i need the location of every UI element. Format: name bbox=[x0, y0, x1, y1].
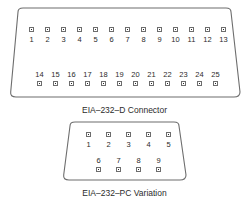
db25-caption: EIA–232–D Connector bbox=[0, 105, 249, 116]
db25-pin-label-21: 21 bbox=[143, 70, 160, 79]
db9-pin-3[interactable] bbox=[126, 132, 131, 137]
db25-pin-label-25: 25 bbox=[207, 70, 224, 79]
db9-pin-label-9: 9 bbox=[150, 156, 167, 165]
db9-pin-label-3: 3 bbox=[120, 140, 137, 149]
db25-pin-1[interactable] bbox=[29, 27, 34, 32]
db25-pin-label-23: 23 bbox=[175, 70, 192, 79]
db25-pin-label-13: 13 bbox=[215, 35, 232, 44]
db25-pin-label-1: 1 bbox=[23, 35, 40, 44]
db25-pin-10[interactable] bbox=[173, 27, 178, 32]
db9-pin-label-2: 2 bbox=[100, 140, 117, 149]
db25-pin-15[interactable] bbox=[53, 81, 58, 86]
db25-pin-label-11: 11 bbox=[183, 35, 200, 44]
figure-root: 1 2 3 4 5 6 7 8 9 10 11 12 13 14 15 16 1… bbox=[0, 0, 249, 210]
db25-pin-4[interactable] bbox=[77, 27, 82, 32]
db9-pin-4[interactable] bbox=[146, 132, 151, 137]
db25-pin-8[interactable] bbox=[141, 27, 146, 32]
db25-pin-12[interactable] bbox=[205, 27, 210, 32]
db25-pin-20[interactable] bbox=[133, 81, 138, 86]
db25-pin-18[interactable] bbox=[101, 81, 106, 86]
db9-connector-diagram: 1 2 3 4 5 6 7 8 9 EIA–232–PC Variation bbox=[0, 118, 249, 210]
db9-pin-7[interactable] bbox=[116, 167, 121, 172]
db25-pin-label-14: 14 bbox=[31, 70, 48, 79]
db25-pin-6[interactable] bbox=[109, 27, 114, 32]
db25-pin-label-17: 17 bbox=[79, 70, 96, 79]
db25-pin-9[interactable] bbox=[157, 27, 162, 32]
db9-pin-label-1: 1 bbox=[80, 140, 97, 149]
db25-pin-24[interactable] bbox=[197, 81, 202, 86]
db9-pin-label-8: 8 bbox=[130, 156, 147, 165]
db25-pin-16[interactable] bbox=[69, 81, 74, 86]
db9-pin-label-4: 4 bbox=[140, 140, 157, 149]
db25-pin-label-5: 5 bbox=[87, 35, 104, 44]
db25-pin-14[interactable] bbox=[37, 81, 42, 86]
db25-pin-label-20: 20 bbox=[127, 70, 144, 79]
db25-pin-label-22: 22 bbox=[159, 70, 176, 79]
db25-pin-13[interactable] bbox=[221, 27, 226, 32]
db25-pin-19[interactable] bbox=[117, 81, 122, 86]
db25-pin-layer: 1 2 3 4 5 6 7 8 9 10 11 12 13 14 15 16 1… bbox=[0, 0, 249, 118]
db25-pin-label-9: 9 bbox=[151, 35, 168, 44]
db9-pin-6[interactable] bbox=[96, 167, 101, 172]
db9-pin-label-5: 5 bbox=[160, 140, 177, 149]
db25-pin-label-3: 3 bbox=[55, 35, 72, 44]
db9-pin-5[interactable] bbox=[166, 132, 171, 137]
db25-pin-label-8: 8 bbox=[135, 35, 152, 44]
db25-pin-7[interactable] bbox=[125, 27, 130, 32]
db25-pin-label-2: 2 bbox=[39, 35, 56, 44]
db25-pin-21[interactable] bbox=[149, 81, 154, 86]
db25-pin-3[interactable] bbox=[61, 27, 66, 32]
db25-pin-22[interactable] bbox=[165, 81, 170, 86]
db9-pin-9[interactable] bbox=[156, 167, 161, 172]
db25-pin-25[interactable] bbox=[213, 81, 218, 86]
db25-connector-diagram: 1 2 3 4 5 6 7 8 9 10 11 12 13 14 15 16 1… bbox=[0, 0, 249, 118]
db9-pin-1[interactable] bbox=[86, 132, 91, 137]
db9-pin-label-7: 7 bbox=[110, 156, 127, 165]
db9-caption: EIA–232–PC Variation bbox=[0, 188, 249, 199]
db25-pin-label-6: 6 bbox=[103, 35, 120, 44]
db25-pin-11[interactable] bbox=[189, 27, 194, 32]
db25-pin-label-15: 15 bbox=[47, 70, 64, 79]
db9-pin-2[interactable] bbox=[106, 132, 111, 137]
db25-pin-label-24: 24 bbox=[191, 70, 208, 79]
db25-pin-5[interactable] bbox=[93, 27, 98, 32]
db25-pin-label-18: 18 bbox=[95, 70, 112, 79]
db25-pin-label-10: 10 bbox=[167, 35, 184, 44]
db25-pin-label-16: 16 bbox=[63, 70, 80, 79]
db25-pin-17[interactable] bbox=[85, 81, 90, 86]
db25-pin-2[interactable] bbox=[45, 27, 50, 32]
db25-pin-label-19: 19 bbox=[111, 70, 128, 79]
db9-pin-label-6: 6 bbox=[90, 156, 107, 165]
db25-pin-label-4: 4 bbox=[71, 35, 88, 44]
db25-pin-label-7: 7 bbox=[119, 35, 136, 44]
db25-pin-label-12: 12 bbox=[199, 35, 216, 44]
db9-pin-8[interactable] bbox=[136, 167, 141, 172]
db25-pin-23[interactable] bbox=[181, 81, 186, 86]
